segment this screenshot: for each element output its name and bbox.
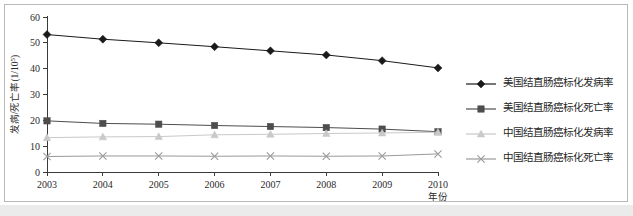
diamond-marker bbox=[211, 43, 219, 51]
legend-label: 中国结直肠癌标化死亡率 bbox=[503, 151, 613, 163]
chart-figure: 0102030405060 20032004200520062007200820… bbox=[0, 0, 633, 216]
y-axis-title: 发病/死亡率(1/105) bbox=[9, 55, 21, 134]
y-tick-label: 10 bbox=[30, 141, 40, 152]
x-axis: 20032004200520062007200820092010 bbox=[37, 172, 448, 190]
chart-legend: 美国结直肠癌标化发病率美国结直肠癌标化死亡率中国结直肠癌标化发病率中国结直肠癌标… bbox=[466, 76, 613, 163]
legend-item[interactable]: 美国结直肠癌标化发病率 bbox=[466, 76, 613, 88]
square-marker bbox=[267, 123, 273, 129]
x-tick-label: 2009 bbox=[372, 179, 392, 190]
diamond-marker bbox=[99, 35, 107, 43]
y-axis: 0102030405060 bbox=[30, 12, 47, 178]
diamond-marker bbox=[434, 64, 442, 72]
square-marker bbox=[100, 120, 106, 126]
diamond-marker bbox=[378, 57, 386, 65]
legend-label: 美国结直肠癌标化发病率 bbox=[503, 76, 613, 88]
legend-label: 美国结直肠癌标化死亡率 bbox=[503, 101, 613, 113]
diamond-marker bbox=[43, 31, 51, 39]
line-chart: 0102030405060 20032004200520062007200820… bbox=[0, 0, 633, 216]
series-layer bbox=[43, 31, 442, 161]
y-tick-label: 40 bbox=[30, 63, 40, 74]
y-tick-label: 30 bbox=[30, 89, 40, 100]
diamond-marker bbox=[266, 47, 274, 55]
y-tick-label: 20 bbox=[30, 115, 40, 126]
series-1 bbox=[43, 31, 442, 72]
series-3 bbox=[43, 128, 442, 140]
legend-item[interactable]: 美国结直肠癌标化死亡率 bbox=[466, 101, 613, 113]
x-tick-label: 2010 bbox=[428, 179, 448, 190]
legend-item[interactable]: 中国结直肠癌标化发病率 bbox=[466, 126, 613, 138]
x-tick-label: 2007 bbox=[260, 179, 280, 190]
x-tick-label: 2006 bbox=[205, 179, 225, 190]
diamond-marker bbox=[322, 51, 330, 59]
series-line bbox=[47, 154, 438, 157]
square-marker bbox=[478, 106, 484, 112]
y-tick-label: 60 bbox=[30, 12, 40, 23]
y-tick-label: 0 bbox=[35, 167, 40, 178]
diamond-marker bbox=[155, 39, 163, 47]
x-tick-label: 2003 bbox=[37, 179, 57, 190]
square-marker bbox=[211, 122, 217, 128]
legend-item[interactable]: 中国结直肠癌标化死亡率 bbox=[466, 151, 613, 163]
square-marker bbox=[44, 118, 50, 124]
x-axis-title: 年份 bbox=[428, 191, 448, 202]
x-tick-label: 2008 bbox=[316, 179, 336, 190]
diamond-marker bbox=[477, 80, 485, 88]
x-tick-label: 2005 bbox=[149, 179, 169, 190]
legend-label: 中国结直肠癌标化发病率 bbox=[503, 126, 613, 138]
square-marker bbox=[156, 121, 162, 127]
series-4 bbox=[43, 150, 441, 160]
y-tick-label: 50 bbox=[30, 37, 40, 48]
x-tick-label: 2004 bbox=[93, 179, 113, 190]
